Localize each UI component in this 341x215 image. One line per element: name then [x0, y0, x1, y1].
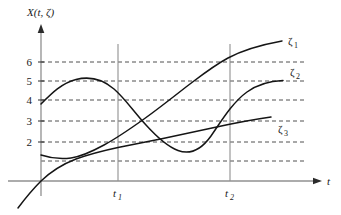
x-axis-label: t	[327, 175, 331, 187]
y-tick-label-2: 2	[27, 136, 33, 148]
random-process-plot: X(t, ζ) t 6 5 4 3 2 t 1 t 2 ζ 1 ζ 2 ζ 3	[0, 0, 341, 215]
x-marker-label-t2: t 2	[225, 187, 234, 202]
curve-label-zeta-3-base: ζ	[278, 123, 283, 136]
x-marker-label-t1: t 1	[113, 187, 122, 202]
x-axis-arrowhead	[313, 178, 322, 184]
gridlines-group	[41, 62, 305, 161]
curve-label-zeta-3: ζ 3	[278, 123, 288, 138]
curve-label-zeta-1: ζ 1	[288, 35, 298, 50]
curve-label-zeta-3-subscript: 3	[284, 129, 288, 138]
y-axis-arrowhead	[38, 24, 45, 33]
y-tick-label-4: 4	[27, 94, 33, 106]
curve-label-zeta-2-subscript: 2	[296, 72, 300, 81]
curve-zeta-2	[41, 78, 283, 152]
x-marker-label-t2-base: t	[225, 187, 229, 199]
curve-label-zeta-2-base: ζ	[290, 66, 295, 79]
x-marker-label-t2-subscript: 2	[230, 193, 234, 202]
y-tick-label-3: 3	[27, 115, 33, 127]
x-marker-label-t1-subscript: 1	[118, 193, 122, 202]
y-axis-label: X(t, ζ)	[26, 6, 54, 19]
curve-label-zeta-1-base: ζ	[288, 35, 293, 48]
x-marker-label-t1-base: t	[113, 187, 117, 199]
y-tick-label-6: 6	[27, 56, 33, 68]
y-tick-label-5: 5	[27, 75, 33, 87]
curve-label-zeta-2: ζ 2	[290, 66, 300, 81]
figure-container: X(t, ζ) t 6 5 4 3 2 t 1 t 2 ζ 1 ζ 2 ζ 3	[0, 0, 341, 215]
curve-label-zeta-1-subscript: 1	[294, 41, 298, 50]
